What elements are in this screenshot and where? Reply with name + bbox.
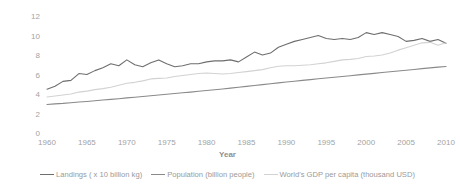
series-layer <box>47 33 446 105</box>
y-axis-tick: 2 <box>22 111 40 119</box>
legend-line-swatch-icon <box>264 174 278 175</box>
legend-item-2[interactable]: World's GDP per capita (thousand USD) <box>264 171 415 179</box>
x-axis-tick: 1970 <box>112 139 142 147</box>
x-axis-tick: 1995 <box>311 139 341 147</box>
legend-item-1[interactable]: Population (billion people) <box>151 171 254 179</box>
x-axis-tick: 2000 <box>351 139 381 147</box>
x-axis-tick: 1985 <box>232 139 262 147</box>
legend-item-label: Population (billion people) <box>167 171 254 179</box>
legend-item-label: World's GDP per capita (thousand USD) <box>280 171 415 179</box>
x-axis-tick: 1990 <box>271 139 301 147</box>
y-axis-tick: 4 <box>22 91 40 99</box>
y-axis-tick: 6 <box>22 72 40 80</box>
y-axis-tick: 10 <box>22 33 40 41</box>
series-line-1 <box>47 67 446 105</box>
x-axis-tick: 1965 <box>72 139 102 147</box>
chart-legend: Landings ( x 10 billion kg)Population (b… <box>0 171 455 179</box>
x-axis-title: Year <box>0 151 455 159</box>
x-axis-tick: 2010 <box>431 139 460 147</box>
legend-item-label: Landings ( x 10 billion kg) <box>56 171 142 179</box>
legend-item-0[interactable]: Landings ( x 10 billion kg) <box>40 171 142 179</box>
y-axis-tick: 8 <box>22 52 40 60</box>
series-line-2 <box>47 42 446 97</box>
x-axis-tick: 1980 <box>192 139 222 147</box>
x-axis-tick: 1975 <box>152 139 182 147</box>
legend-line-swatch-icon <box>40 174 54 175</box>
legend-line-swatch-icon <box>151 174 165 175</box>
x-axis-tick: 1960 <box>32 139 62 147</box>
x-axis-tick: 2005 <box>391 139 421 147</box>
y-axis-tick: 12 <box>22 13 40 21</box>
y-axis-tick: 0 <box>22 130 40 138</box>
series-line-0 <box>47 33 446 90</box>
